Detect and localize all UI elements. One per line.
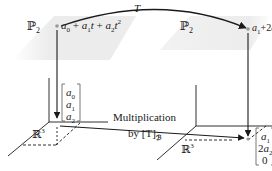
left-r3-label: ℝ3: [32, 128, 45, 140]
left-vector-entry-2: a2: [66, 111, 75, 125]
right-r3-superscript: 3: [190, 142, 194, 150]
domain-point: [55, 24, 59, 28]
codomain-point: [246, 27, 250, 31]
transformation-label: T: [134, 3, 140, 14]
left-r3-symbol: ℝ: [32, 128, 41, 141]
right-coordinate-point: [246, 137, 249, 140]
domain-space-label: ℙ2: [27, 20, 40, 35]
codomain-space-label: ℙ2: [180, 20, 193, 35]
domain-element: a0 + a1t + a2t2: [61, 19, 121, 34]
domain-space-subscript: 2: [36, 26, 40, 35]
left-r3-superscript: 3: [41, 127, 45, 135]
right-r3-label: ℝ3: [181, 143, 194, 155]
codomain-element: a1+2a2t: [252, 23, 272, 36]
left-r3-axes: [8, 78, 108, 156]
matrix-map-prefix: by [T]: [128, 127, 156, 139]
domain-space-symbol: ℙ: [27, 19, 36, 33]
matrix-map-line2: by [T]ℬ: [128, 128, 162, 142]
coordinate-mapping-diagram: [0, 0, 272, 171]
right-r3-symbol: ℝ: [181, 143, 190, 156]
codomain-space-subscript: 2: [189, 26, 193, 35]
right-vector-entry-2: 0: [262, 155, 268, 166]
matrix-map-line1: Multiplication: [113, 112, 176, 123]
codomain-space-symbol: ℙ: [180, 19, 189, 33]
matrix-map-subscript: ℬ: [156, 134, 162, 142]
